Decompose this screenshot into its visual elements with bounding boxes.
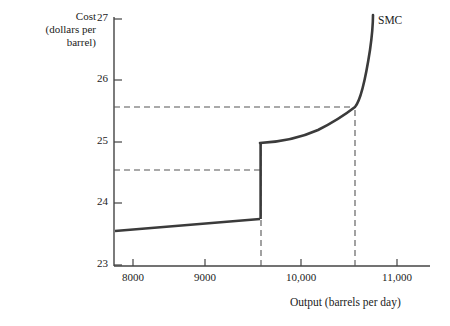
y-tick-marks (114, 19, 122, 265)
smc-series-label: SMC (378, 14, 402, 28)
y-tick-label-25: 25 (82, 134, 108, 147)
y-axis-title-line3: barrel) (18, 36, 96, 49)
y-axis-title-line2: (dollars per (18, 23, 96, 36)
x-axis-title: Output (barrels per day) (290, 296, 401, 310)
y-tick-label-24: 24 (82, 195, 108, 208)
smc-curve-upper-branch (260, 15, 373, 143)
y-tick-label-26: 26 (82, 72, 108, 85)
x-tick-marks (133, 259, 397, 266)
smc-curve-lower-branch (115, 219, 260, 231)
x-tick-label-11000: 11,000 (369, 271, 425, 284)
x-tick-label-9000: 9000 (181, 271, 229, 284)
x-tick-label-8000: 8000 (109, 271, 157, 284)
figure-canvas: Cost (dollars per barrel) 27 26 25 24 23… (0, 0, 450, 326)
y-tick-label-27: 27 (82, 11, 108, 24)
x-tick-label-10000: 10,000 (273, 271, 329, 284)
y-tick-label-23: 23 (82, 257, 108, 270)
